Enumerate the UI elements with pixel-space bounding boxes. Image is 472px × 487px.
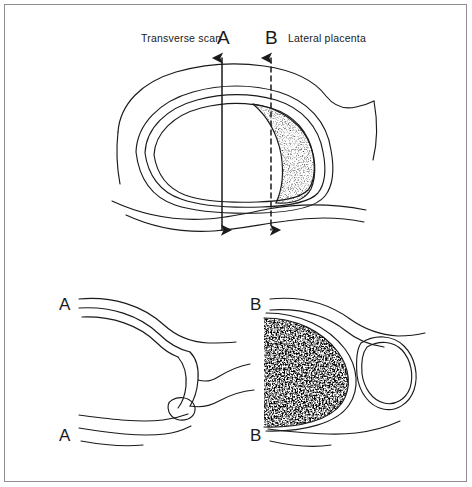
figure-container: Transverse scan A B Lateral placenta A A… (0, 0, 472, 487)
scan-a-cervix-outer (190, 352, 198, 406)
scan-a-lower-inner (79, 426, 191, 435)
scan-a-cervical-canal-lower (190, 390, 254, 407)
scan-a-cervical-canal (198, 364, 250, 381)
scan-plane-a-label: A (217, 28, 230, 47)
posterior-body-wall (112, 201, 366, 219)
lateral-placenta-label: Lateral placenta (288, 33, 366, 44)
lower-right-scan-b (264, 298, 425, 446)
scan-b-lower-inner (270, 441, 331, 446)
lower-left-scan-a (79, 298, 254, 445)
placenta-crescent-fill (253, 104, 315, 203)
section-b-bottom-label: B (250, 427, 261, 444)
abdominal-wall-right-flank (373, 101, 377, 160)
section-b-top-label: B (250, 296, 261, 313)
scan-a-upper-outer (79, 298, 236, 343)
diagram-canvas (0, 0, 472, 487)
scan-a-lower-outer (79, 414, 188, 421)
transverse-scan-label: Transverse scan (141, 33, 221, 44)
scan-a-lower-third (81, 441, 143, 446)
scan-b-placenta-fill (264, 318, 348, 427)
scan-a-upper-inner (79, 308, 190, 352)
abdominal-wall-left-flank (117, 132, 120, 184)
section-a-bottom-label: A (59, 427, 70, 444)
scan-b-cervix-outer (356, 337, 416, 410)
section-a-top-label: A (59, 296, 70, 313)
abdominal-wall-outline (118, 64, 374, 132)
posterior-body-wall-lower (126, 215, 364, 231)
scan-a-upper-third (82, 317, 178, 357)
upper-transverse-section (112, 58, 377, 231)
scan-a-cervix-inner (178, 357, 186, 408)
scan-plane-b-label: B (265, 28, 278, 47)
scan-b-cervix-inner (362, 342, 412, 403)
